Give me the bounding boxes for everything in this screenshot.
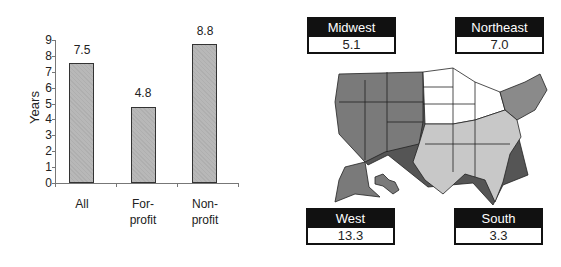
bar-for-profit [131, 107, 156, 183]
bar-chart: Years 0123456789 7.5 4.8 8.8 All For-pro… [0, 0, 260, 267]
region-value: 5.1 [309, 36, 394, 52]
y-tick-mark [52, 151, 56, 152]
us-regions-map [325, 62, 550, 207]
region-name: South [456, 210, 541, 227]
region-box-south: South 3.3 [454, 208, 543, 245]
bar-value-all: 7.5 [62, 43, 102, 57]
region-box-northeast: Northeast 7.0 [455, 17, 544, 54]
region-name: Northeast [457, 19, 542, 36]
cat-label: All [75, 197, 88, 211]
y-tick-mark [52, 167, 56, 168]
region-box-west: West 13.3 [306, 208, 395, 245]
region-value: 13.3 [308, 227, 393, 243]
y-tick-label: 9 [38, 33, 52, 47]
region-name: Midwest [309, 19, 394, 36]
bar-value-non-profit: 8.8 [185, 24, 225, 38]
y-tick-label: 3 [38, 128, 52, 142]
y-tick-label: 4 [38, 112, 52, 126]
bar-value-for-profit: 4.8 [123, 86, 163, 100]
y-tick-mark [52, 72, 56, 73]
region-value: 3.3 [456, 227, 541, 243]
y-tick-label: 2 [38, 144, 52, 158]
category-non-profit: Non-profit [180, 196, 230, 228]
x-tick-mark [177, 183, 178, 187]
cat-label: profit [130, 213, 157, 227]
x-tick-mark [238, 183, 239, 187]
y-axis [55, 40, 56, 183]
y-tick-mark [52, 56, 56, 57]
y-tick-label: 0 [38, 176, 52, 190]
y-tick-label: 6 [38, 81, 52, 95]
y-tick-label: 5 [38, 97, 52, 111]
y-tick-label: 8 [38, 49, 52, 63]
region-south [413, 110, 521, 202]
region-alaska [335, 162, 380, 202]
y-tick-mark [52, 88, 56, 89]
category-for-profit: For-profit [118, 196, 168, 228]
y-tick-label: 7 [38, 65, 52, 79]
cat-label: profit [192, 213, 219, 227]
y-tick-mark [52, 119, 56, 120]
x-tick-mark [55, 183, 56, 187]
y-tick-mark [52, 135, 56, 136]
category-all: All [57, 196, 107, 212]
y-tick-mark [52, 40, 56, 41]
y-tick-mark [52, 104, 56, 105]
cat-label: For- [132, 197, 154, 211]
x-axis [55, 183, 238, 184]
y-tick-label: 1 [38, 160, 52, 174]
bar-non-profit [192, 44, 217, 183]
cat-label: Non- [192, 197, 218, 211]
x-tick-mark [116, 183, 117, 187]
region-value: 7.0 [457, 36, 542, 52]
region-box-midwest: Midwest 5.1 [307, 17, 396, 54]
bar-all [69, 63, 94, 183]
region-hawaii [375, 174, 399, 194]
region-name: West [308, 210, 393, 227]
